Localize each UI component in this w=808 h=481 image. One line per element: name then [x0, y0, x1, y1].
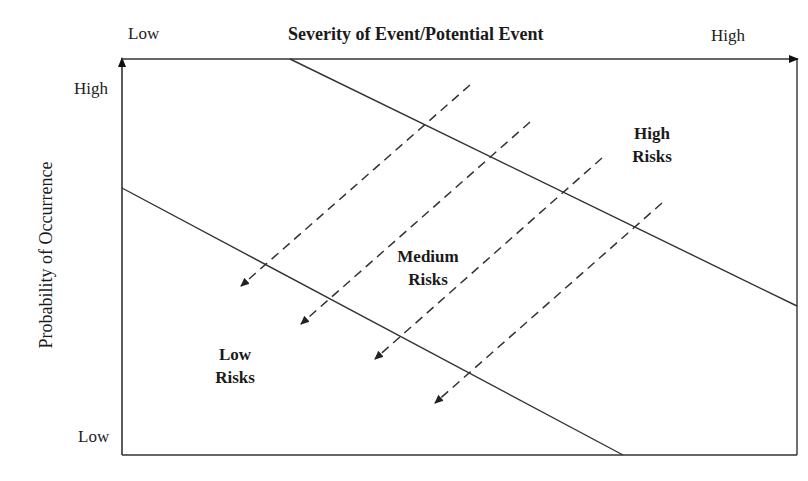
high-risks-line1: High — [617, 122, 687, 145]
medium-risks-line1: Medium — [383, 245, 473, 268]
medium-high-boundary-line — [290, 59, 797, 306]
y-axis-title: Probability of Occurrence — [37, 155, 55, 355]
risk-matrix-diagram — [0, 0, 808, 481]
low-medium-boundary-line — [122, 188, 623, 455]
medium-risks-line2: Risks — [383, 268, 473, 291]
x-axis-high-label: High — [711, 27, 745, 44]
high-risks-line2: Risks — [617, 145, 687, 168]
y-axis-high-label: High — [74, 80, 108, 97]
x-axis-low-label: Low — [128, 25, 159, 42]
low-risks-label: Low Risks — [200, 343, 270, 389]
low-risks-line1: Low — [200, 343, 270, 366]
dashed-arrow-icon — [435, 203, 662, 403]
dashed-arrow-icon — [301, 122, 530, 324]
x-axis-title: Severity of Event/Potential Event — [288, 25, 543, 43]
y-axis-low-label: Low — [78, 428, 109, 445]
risk-reduction-arrows — [241, 85, 662, 403]
low-risks-line2: Risks — [200, 366, 270, 389]
high-risks-label: High Risks — [617, 122, 687, 168]
medium-risks-label: Medium Risks — [383, 245, 473, 291]
